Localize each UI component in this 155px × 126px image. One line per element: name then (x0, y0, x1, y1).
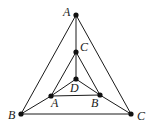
label-outer-c: C (137, 109, 146, 123)
graph-diagram: A B C A B C D (0, 0, 155, 126)
node-outerC (128, 111, 133, 116)
node-innerC (73, 49, 78, 54)
edges (21, 15, 131, 114)
edge-outerA-outerC (76, 15, 131, 114)
label-inner-c: C (80, 40, 89, 54)
labels: A B C A B C D (8, 5, 146, 123)
label-inner-a: A (50, 96, 59, 110)
edge-innerB-D (76, 79, 100, 95)
edge-outerC-innerB (100, 95, 131, 114)
edge-outerA-outerB (21, 15, 76, 114)
label-outer-a: A (62, 5, 71, 19)
node-outerA (73, 12, 78, 17)
edge-innerC-innerB (76, 52, 100, 95)
node-outerB (18, 111, 23, 116)
label-d: D (69, 81, 79, 95)
label-outer-b: B (8, 108, 16, 122)
label-inner-b: B (91, 96, 99, 110)
